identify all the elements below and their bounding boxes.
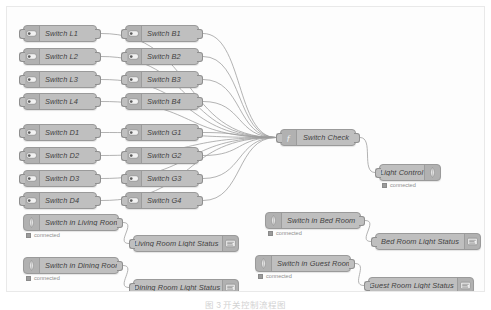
node-input-port[interactable] <box>121 29 127 39</box>
node-input-port[interactable] <box>19 97 25 107</box>
status-dot <box>268 231 273 236</box>
node-output-port[interactable] <box>95 196 101 206</box>
node-label: Guest Room Light Status <box>369 282 457 289</box>
figure-caption-text: 图 3 开关控制流程图 <box>205 300 286 310</box>
node-switch-d4[interactable]: Switch D4 <box>23 192 97 209</box>
node-input-port[interactable] <box>276 133 282 143</box>
node-bed-room-light-status[interactable]: Bed Room Light Status <box>375 233 481 250</box>
debug-icon <box>222 236 238 251</box>
node-input-port[interactable] <box>121 97 127 107</box>
node-input-port[interactable] <box>19 196 25 206</box>
node-switch-g1[interactable]: Switch G1 <box>125 124 199 141</box>
node-living-room-light-status[interactable]: Living Room Light Status <box>133 235 239 252</box>
mqtt-in-icon <box>256 256 272 271</box>
node-switch-b2[interactable]: Switch B2 <box>125 48 199 65</box>
node-status: connected <box>268 231 302 237</box>
node-input-port[interactable] <box>19 174 25 184</box>
node-output-port[interactable] <box>95 151 101 161</box>
flow-canvas[interactable]: Switch L1Switch L2Switch L3Switch L4Swit… <box>7 7 484 291</box>
node-output-port[interactable] <box>95 29 101 39</box>
node-label: Switch B4 <box>142 98 198 105</box>
node-switch-d3[interactable]: Switch D3 <box>23 170 97 187</box>
node-label: Switch G2 <box>142 152 198 159</box>
node-switch-in-guest-room[interactable]: Switch in Guest Roomconnected <box>255 255 351 272</box>
node-label: Switch in Bed Room <box>282 217 360 224</box>
node-input-port[interactable] <box>121 151 127 161</box>
node-switch-b1[interactable]: Switch B1 <box>125 25 199 42</box>
node-red-flow-screenshot: Switch L1Switch L2Switch L3Switch L4Swit… <box>0 0 491 310</box>
node-input-port[interactable] <box>121 196 127 206</box>
node-output-port[interactable] <box>197 29 203 39</box>
node-output-port[interactable] <box>349 259 355 269</box>
node-input-port[interactable] <box>121 174 127 184</box>
node-output-port[interactable] <box>95 174 101 184</box>
node-input-port[interactable] <box>121 128 127 138</box>
node-input-port[interactable] <box>371 237 377 247</box>
node-output-port[interactable] <box>197 52 203 62</box>
node-output-port[interactable] <box>117 218 123 228</box>
node-status: connected <box>26 276 60 282</box>
node-input-port[interactable] <box>375 168 381 178</box>
node-output-port[interactable] <box>354 133 360 143</box>
node-switch-l1[interactable]: Switch L1 <box>23 25 97 42</box>
node-switch-l2[interactable]: Switch L2 <box>23 48 97 65</box>
node-switch-g2[interactable]: Switch G2 <box>125 147 199 164</box>
node-label: Light Control <box>380 169 424 176</box>
node-input-port[interactable] <box>19 52 25 62</box>
node-label: Switch L1 <box>40 30 96 37</box>
node-light-control[interactable]: Light Controlconnected <box>379 164 441 181</box>
node-switch-in-living-room[interactable]: Switch in Living Roomconnected <box>23 214 119 231</box>
toggle-switch-icon <box>24 49 40 64</box>
node-switch-in-dining-room[interactable]: Switch in Dining Roomconnected <box>23 257 119 274</box>
node-output-port[interactable] <box>197 196 203 206</box>
node-input-port[interactable] <box>121 52 127 62</box>
node-output-port[interactable] <box>95 97 101 107</box>
node-guest-room-light-status[interactable]: Guest Room Light Status <box>368 277 474 291</box>
status-text: connected <box>276 231 302 237</box>
node-switch-d1[interactable]: Switch D1 <box>23 124 97 141</box>
node-switch-d2[interactable]: Switch D2 <box>23 147 97 164</box>
node-switch-b3[interactable]: Switch B3 <box>125 71 199 88</box>
wire <box>203 80 276 138</box>
toggle-switch-icon <box>24 193 40 208</box>
node-output-port[interactable] <box>95 52 101 62</box>
node-output-port[interactable] <box>197 97 203 107</box>
node-output-port[interactable] <box>95 75 101 85</box>
node-output-port[interactable] <box>197 174 203 184</box>
flow-canvas-frame: Switch L1Switch L2Switch L3Switch L4Swit… <box>6 6 485 292</box>
node-dining-room-light-status[interactable]: Dining Room Light Status <box>133 279 239 291</box>
node-switch-in-bed-room[interactable]: Switch in Bed Roomconnected <box>265 212 361 229</box>
node-switch-b4[interactable]: Switch B4 <box>125 93 199 110</box>
toggle-switch-icon <box>126 49 142 64</box>
node-input-port[interactable] <box>19 128 25 138</box>
node-switch-check[interactable]: ƒSwitch Check <box>280 129 356 146</box>
node-switch-g3[interactable]: Switch G3 <box>125 170 199 187</box>
svg-text:ƒ: ƒ <box>286 133 291 143</box>
node-input-port[interactable] <box>364 281 370 291</box>
node-output-port[interactable] <box>359 216 365 226</box>
wire <box>203 138 276 156</box>
node-switch-l4[interactable]: Switch L4 <box>23 93 97 110</box>
debug-icon <box>457 278 473 291</box>
node-input-port[interactable] <box>19 29 25 39</box>
node-status: connected <box>382 183 416 189</box>
node-output-port[interactable] <box>197 151 203 161</box>
node-label: Switch in Dining Room <box>40 262 118 269</box>
node-input-port[interactable] <box>19 75 25 85</box>
node-label: Switch in Living Room <box>40 219 118 226</box>
wire <box>203 138 276 201</box>
node-output-port[interactable] <box>197 75 203 85</box>
node-input-port[interactable] <box>129 283 135 291</box>
node-switch-g4[interactable]: Switch G4 <box>125 192 199 209</box>
node-input-port[interactable] <box>129 239 135 249</box>
wire <box>355 264 364 286</box>
node-label: Switch L4 <box>40 98 96 105</box>
node-input-port[interactable] <box>19 151 25 161</box>
node-input-port[interactable] <box>121 75 127 85</box>
node-output-port[interactable] <box>117 261 123 271</box>
node-label: Living Room Light Status <box>134 240 222 247</box>
node-output-port[interactable] <box>197 128 203 138</box>
node-output-port[interactable] <box>95 128 101 138</box>
node-label: Switch G1 <box>142 129 198 136</box>
node-switch-l3[interactable]: Switch L3 <box>23 71 97 88</box>
